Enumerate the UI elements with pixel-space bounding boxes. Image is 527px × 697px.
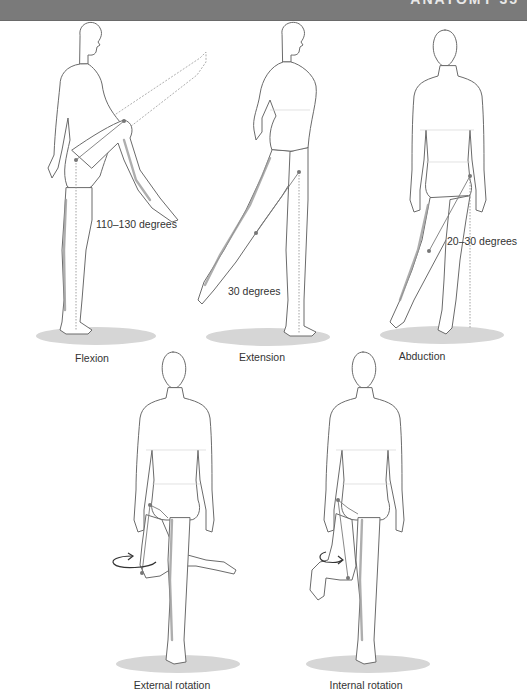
extended-leg-extension [198, 150, 298, 304]
standing-leg-extension [284, 148, 316, 336]
figure-extension [198, 22, 330, 346]
ghost-leg-flexion [110, 52, 206, 127]
head-internal-rotation [352, 352, 376, 388]
head-abduction [433, 30, 457, 66]
head-extension [282, 22, 305, 62]
head-external-rotation [162, 352, 186, 388]
torso-extension [254, 62, 317, 152]
head-flexion [80, 22, 102, 64]
figure-label-external-rotation: External rotation [134, 679, 210, 691]
figure-label-abduction: Abduction [399, 350, 446, 362]
floor-shadow-flexion [36, 327, 156, 345]
torso-abduction [410, 66, 486, 212]
figure-external-rotation [113, 352, 240, 673]
hip-joint-internal-rotation [336, 498, 340, 502]
knee-joint-extension [254, 231, 258, 235]
angle-label-flexion: 110–130 degrees [96, 218, 177, 230]
page-header-text: ANATOMY 35 [410, 0, 519, 7]
knee-joint-flexion [122, 119, 126, 123]
knee-joint-external-rotation [140, 571, 144, 575]
page-header-bar: ANATOMY 35 [0, 0, 527, 21]
hip-joint-abduction [468, 174, 472, 178]
torso-external-rotation [134, 388, 214, 532]
figure-label-flexion: Flexion [75, 352, 109, 364]
figure-label-internal-rotation: Internal rotation [330, 679, 403, 691]
hip-joint-flexion [74, 158, 78, 162]
figure-label-extension: Extension [239, 351, 285, 363]
angle-label-abduction: 20–30 degrees [447, 235, 517, 247]
hip-joint-external-rotation [148, 503, 152, 507]
figure-abduction [380, 30, 504, 344]
knee-joint-abduction [427, 249, 431, 253]
hip-joint-extension [297, 170, 301, 174]
figure-flexion [36, 22, 206, 345]
angle-label-extension: 30 degrees [228, 285, 281, 297]
torso-internal-rotation [324, 388, 404, 532]
figure-internal-rotation [306, 352, 430, 673]
knee-joint-internal-rotation [346, 576, 350, 580]
